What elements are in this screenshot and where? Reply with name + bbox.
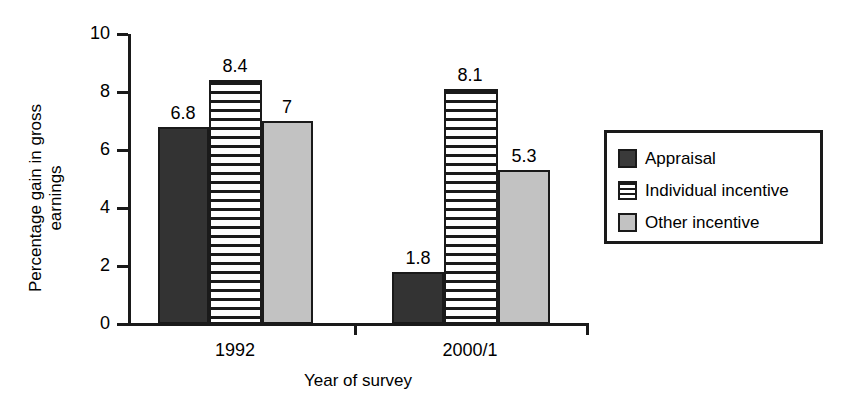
bar-value-1992-other-incentive: 7 (252, 97, 322, 117)
x-tick-between-groups (354, 323, 357, 335)
striped-swatch-icon (618, 181, 637, 200)
x-category-label-1992: 1992 (175, 340, 295, 360)
y-tick-0 (117, 323, 128, 326)
bar-2000-1-other-incentive (498, 170, 550, 324)
bar-value-1992-appraisal: 6.8 (148, 103, 218, 123)
y-tick-4 (117, 207, 128, 210)
y-tick-label-0: 0 (80, 314, 110, 332)
y-tick-8 (117, 91, 128, 94)
bar-chart: Percentage gain in gross earnings 10 8 6… (0, 0, 851, 408)
bar-2000-1-appraisal (392, 272, 444, 324)
bar-1992-other-incentive (262, 121, 313, 324)
bar-value-2000-1-individual-incentive: 8.1 (435, 65, 505, 85)
y-tick-label-8: 8 (80, 82, 110, 100)
x-axis-title: Year of survey (228, 371, 488, 391)
legend-item-individual-incentive: Individual incentive (618, 174, 820, 206)
y-tick-label-2: 2 (80, 256, 110, 274)
legend-label-other-incentive: Other incentive (645, 213, 759, 232)
y-axis-line (128, 34, 131, 325)
x-tick-right-end (586, 323, 589, 335)
chart-legend: Appraisal Individual incentive Other inc… (604, 130, 823, 244)
bar-value-2000-1-other-incentive: 5.3 (489, 146, 559, 166)
legend-label-appraisal: Appraisal (645, 149, 716, 168)
y-tick-label-10: 10 (80, 24, 110, 42)
y-tick-10 (117, 33, 128, 36)
bar-value-2000-1-appraisal: 1.8 (383, 248, 453, 268)
y-tick-label-6: 6 (80, 140, 110, 158)
y-tick-6 (117, 149, 128, 152)
dark-solid-swatch-icon (618, 149, 637, 168)
y-axis-title: Percentage gain in gross earnings (26, 48, 66, 348)
legend-item-other-incentive: Other incentive (618, 206, 820, 238)
y-tick-2 (117, 265, 128, 268)
light-gray-swatch-icon (618, 213, 637, 232)
y-tick-label-4: 4 (80, 198, 110, 216)
bar-1992-appraisal (158, 127, 209, 324)
legend-item-appraisal: Appraisal (618, 142, 820, 174)
bar-value-1992-individual-incentive: 8.4 (200, 56, 270, 76)
x-category-label-2000-1: 2000/1 (410, 340, 530, 360)
legend-label-individual-incentive: Individual incentive (645, 181, 789, 200)
bar-2000-1-individual-incentive (444, 89, 498, 324)
